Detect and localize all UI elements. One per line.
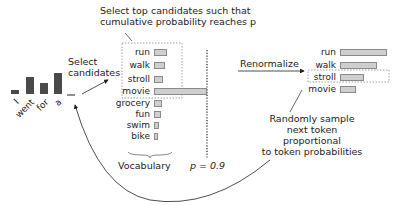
vocab-bar-movie	[154, 88, 207, 95]
caption-line: next token	[232, 124, 392, 135]
context-bar-a	[54, 73, 62, 94]
top-p-caption: Select top candidates such that cumulati…	[100, 5, 240, 27]
renorm-bar-run	[340, 49, 387, 56]
renorm-token: walk	[276, 60, 336, 70]
context-bar-went	[26, 77, 34, 94]
caption-line: to token probabilities	[232, 146, 392, 157]
vocab-token: movie	[90, 86, 150, 96]
renorm-bar-stroll	[340, 74, 364, 81]
caption-line: proportional	[232, 135, 392, 146]
renorm-bar-movie	[340, 86, 356, 93]
context-bar-for	[40, 83, 48, 94]
vocab-bar-run	[154, 49, 167, 56]
renorm-token: stroll	[276, 72, 336, 82]
vocab-token: stroll	[90, 74, 150, 84]
vocab-token: fun	[90, 109, 150, 119]
renorm-bar-walk	[340, 62, 377, 69]
vocab-bar-walk	[154, 62, 165, 69]
vocab-bar-fun	[154, 111, 161, 118]
renorm-token: movie	[276, 84, 336, 94]
vocabulary-label: Vocabulary	[118, 160, 171, 171]
vocab-token: bike	[90, 131, 150, 141]
vocab-token: walk	[90, 60, 150, 70]
caption-line: Select top candidates such that	[100, 5, 240, 16]
vocab-bar-swim	[154, 122, 159, 129]
caption-pointer	[125, 33, 132, 41]
vocab-token: swim	[90, 120, 150, 130]
context-bar-i	[11, 90, 19, 94]
vocab-bar-stroll	[154, 76, 163, 83]
renorm-token: run	[276, 47, 336, 57]
vocab-token: grocery	[90, 98, 150, 108]
caption-line: Randomly sample	[232, 113, 392, 124]
vocab-bar-grocery	[154, 100, 162, 107]
vocab-bar-bike	[154, 133, 158, 140]
p-value-label: p = 0.9	[190, 160, 225, 171]
sample-caption: Randomly sample next token proportional …	[232, 113, 392, 157]
vocabulary-brace	[128, 152, 172, 158]
vocab-token: run	[90, 47, 150, 57]
caption-line: cumulative probability reaches p	[100, 16, 240, 27]
